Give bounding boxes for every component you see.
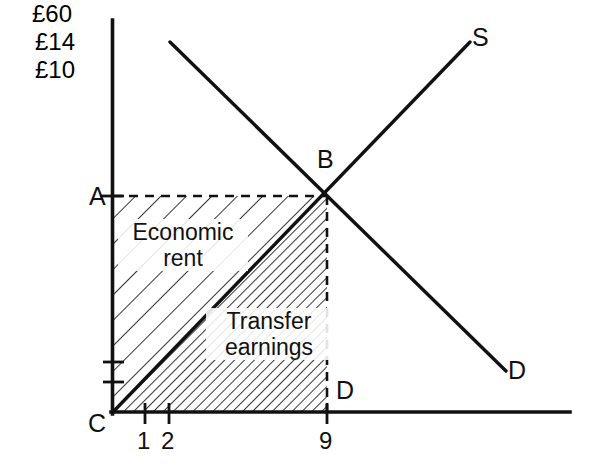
supply-curve-label: S	[472, 24, 489, 50]
point-label-c: C	[88, 410, 106, 436]
point-label-a: A	[89, 183, 106, 209]
quantity-tick-label-2: 2	[161, 428, 174, 453]
quantity-tick-label-9: 9	[319, 428, 332, 453]
economic-rent-label: Economic rent	[118, 219, 248, 271]
diagram-canvas: £60 £14 £10 A B C D S D 1 2 9 Economic r…	[0, 0, 591, 476]
supply-demand-svg	[0, 0, 591, 476]
point-label-b: B	[317, 146, 334, 172]
transfer-earnings-label-line1: Transfer	[206, 308, 332, 334]
point-label-d: D	[336, 377, 354, 403]
transfer-earnings-label: Transfer earnings	[206, 308, 332, 360]
transfer-earnings-label-line2: earnings	[206, 334, 332, 360]
quantity-tick-label-1: 1	[137, 428, 150, 453]
economic-rent-label-line1: Economic	[118, 219, 248, 245]
economic-rent-label-line2: rent	[118, 245, 248, 271]
demand-curve-label: D	[508, 357, 526, 383]
